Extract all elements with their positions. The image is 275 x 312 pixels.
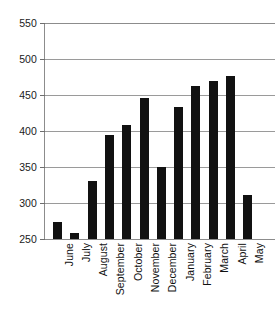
x-tick-label-september: September	[114, 191, 126, 243]
y-tick-label-450: 450	[19, 89, 37, 101]
x-tick-label-december: December	[166, 194, 178, 243]
x-axis-tick-labels: JuneJulyAugustSeptemberOctoberNovemberDe…	[45, 241, 275, 311]
y-tick-label-250: 250	[19, 233, 37, 245]
x-tick-february: February	[191, 241, 200, 311]
y-tick-label-400: 400	[19, 125, 37, 137]
y-tick-label-300: 300	[19, 197, 37, 209]
x-tick-september: September	[105, 241, 114, 311]
x-tick-november: November	[140, 241, 149, 311]
x-tick-label-august: August	[97, 210, 109, 243]
x-tick-label-march: March	[218, 213, 230, 243]
x-tick-january: January	[174, 241, 183, 311]
x-tick-july: July	[70, 241, 79, 311]
x-tick-october: October	[122, 241, 131, 311]
x-tick-label-february: February	[200, 200, 212, 243]
x-tick-march: March	[209, 241, 218, 311]
x-tick-label-may: May	[252, 223, 264, 243]
x-tick-june: June	[53, 241, 62, 311]
x-tick-label-april: April	[235, 221, 247, 243]
y-tick-mark-250	[40, 239, 45, 240]
x-tick-label-january: January	[183, 205, 195, 243]
x-tick-august: August	[88, 241, 97, 311]
x-tick-may: May	[243, 241, 252, 311]
y-tick-label-350: 350	[19, 161, 37, 173]
y-tick-label-550: 550	[19, 17, 37, 29]
x-tick-label-june: June	[62, 220, 74, 243]
bar-chart: 250300350400450500550 JuneJulyAugustSept…	[0, 0, 275, 312]
x-tick-label-october: October	[131, 205, 143, 243]
x-tick-december: December	[157, 241, 166, 311]
x-tick-label-november: November	[149, 194, 161, 243]
bar-june	[53, 222, 62, 239]
y-tick-label-500: 500	[19, 53, 37, 65]
x-tick-april: April	[226, 241, 235, 311]
